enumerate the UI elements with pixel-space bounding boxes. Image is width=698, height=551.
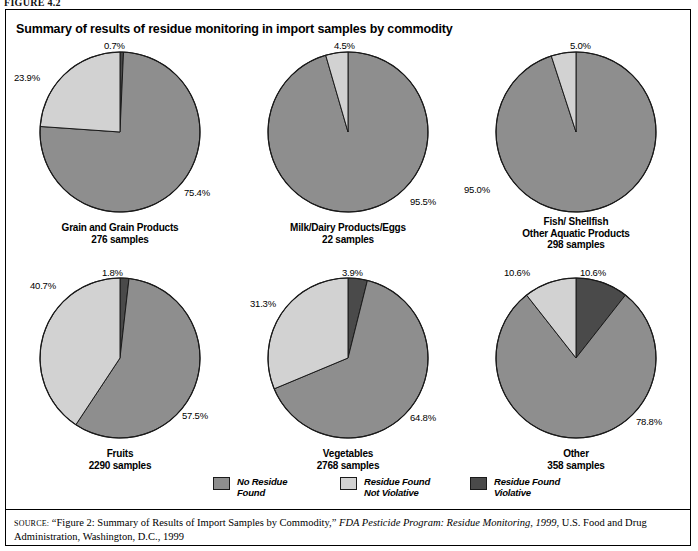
source-note: SOURCE: “Figure 2: Summary of Results of… [14, 516, 682, 543]
pie-value-label-violative: 0.7% [104, 40, 125, 51]
pie-chart-cell: 5.0%95.0%Fish/ ShellfishOther Aquatic Pr… [462, 40, 690, 268]
legend-label: Residue Found Not Violative [364, 476, 430, 498]
pie-value-label-violative: 10.6% [580, 267, 606, 278]
legend-swatch-icon [340, 477, 357, 490]
pie-fish-shellfish-other-aquatic-products: 5.0%95.0% [462, 40, 690, 220]
pie-value-label-no-residue: 64.8% [410, 412, 436, 423]
pie-other: 10.6%10.6%78.8% [462, 266, 690, 446]
pie-value-label-violative: 3.9% [342, 267, 363, 278]
pie-caption: Milk/Dairy Products/Eggs22 samples [234, 222, 462, 245]
pie-slice-not-violative [40, 52, 120, 132]
pie-value-label-violative: 1.8% [102, 267, 123, 278]
legend-swatch-icon [213, 477, 230, 490]
legend-swatch-icon [470, 477, 487, 490]
pie-chart-cell: 4.5%95.5%Milk/Dairy Products/Eggs22 samp… [234, 40, 462, 268]
chart-legend: No Residue FoundResidue Found Not Violat… [0, 470, 698, 504]
pie-caption-name: Grain and Grain Products [6, 222, 234, 234]
pie-caption: Vegetables2768 samples [234, 448, 462, 471]
pie-caption-name: Fruits [6, 448, 234, 460]
pie-chart-grid: 0.7%23.9%75.4%Grain and Grain Products27… [6, 40, 690, 495]
figure-root: FIGURE 4.2 Summary of results of residue… [0, 0, 698, 551]
source-lead-label: SOURCE: [14, 519, 49, 528]
source-text-before: “Figure 2: Summary of Results of Import … [49, 517, 339, 528]
pie-value-label-no-residue: 78.8% [636, 416, 662, 427]
pie-caption: Grain and Grain Products276 samples [6, 222, 234, 245]
pie-caption-name: Vegetables [234, 448, 462, 460]
pie-value-label-not-violative: 40.7% [30, 280, 56, 291]
pie-caption-name: Other [462, 448, 690, 460]
pie-caption-line: 22 samples [234, 234, 462, 246]
legend-label: No Residue Found [237, 476, 287, 498]
pie-value-label-no-residue: 75.4% [184, 187, 210, 198]
pie-caption: Fruits2290 samples [6, 448, 234, 471]
pie-caption: Fish/ ShellfishOther Aquatic Products298… [462, 216, 690, 251]
pie-chart-cell: 3.9%31.3%64.8%Vegetables2768 samples [234, 266, 462, 494]
figure-number-label: FIGURE 4.2 [4, 0, 61, 8]
pie-caption-line: 298 samples [462, 239, 690, 251]
pie-value-label-no-residue: 95.0% [464, 184, 490, 195]
pie-value-label-not-violative: 5.0% [570, 40, 591, 51]
pie-value-label-no-residue: 95.5% [410, 196, 436, 207]
legend-item-not-violative: Residue Found Not Violative [340, 476, 430, 498]
pie-value-label-not-violative: 31.3% [250, 298, 276, 309]
pie-chart-cell: 10.6%10.6%78.8%Other358 samples [462, 266, 690, 494]
pie-chart-cell: 0.7%23.9%75.4%Grain and Grain Products27… [6, 40, 234, 268]
figure-title: Summary of results of residue monitoring… [16, 22, 453, 36]
pie-grain-and-grain-products: 0.7%23.9%75.4% [6, 40, 234, 220]
pie-caption-line: Other Aquatic Products [462, 228, 690, 240]
pie-caption-name: Milk/Dairy Products/Eggs [234, 222, 462, 234]
legend-item-no-residue: No Residue Found [213, 476, 287, 498]
legend-label: Residue Found Violative [494, 476, 560, 498]
pie-graphic [234, 40, 462, 218]
pie-fruits: 1.8%40.7%57.5% [6, 266, 234, 446]
pie-caption: Other358 samples [462, 448, 690, 471]
pie-value-label-no-residue: 57.5% [182, 410, 208, 421]
source-publication-title: FDA Pesticide Program: Residue Monitorin… [339, 517, 557, 528]
source-divider [6, 509, 690, 510]
pie-milk-dairy-products-eggs: 4.5%95.5% [234, 40, 462, 220]
pie-vegetables: 3.9%31.3%64.8% [234, 266, 462, 446]
pie-caption-line: 276 samples [6, 234, 234, 246]
pie-chart-cell: 1.8%40.7%57.5%Fruits2290 samples [6, 266, 234, 494]
pie-caption-name: Fish/ Shellfish [462, 216, 690, 228]
pie-value-label-not-violative: 23.9% [14, 72, 40, 83]
pie-graphic [462, 40, 690, 218]
legend-item-violative: Residue Found Violative [470, 476, 560, 498]
pie-value-label-not-violative: 4.5% [334, 40, 355, 51]
pie-value-label-not-violative: 10.6% [504, 267, 530, 278]
